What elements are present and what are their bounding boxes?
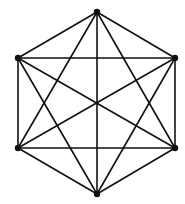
edge-D-E [18, 148, 97, 194]
vertex-lower-left [15, 145, 21, 151]
edge-A-B [97, 12, 175, 58]
vertex-upper-right [172, 55, 178, 61]
vertex-upper-left [15, 55, 21, 61]
edges-group [18, 12, 175, 194]
complete-graph-k6 [0, 0, 185, 204]
edge-A-F [18, 12, 97, 58]
edge-C-D [97, 148, 175, 194]
vertex-lower-right [172, 145, 178, 151]
vertex-top [94, 9, 100, 15]
edge-D-F [18, 58, 97, 194]
vertex-bottom [94, 191, 100, 197]
